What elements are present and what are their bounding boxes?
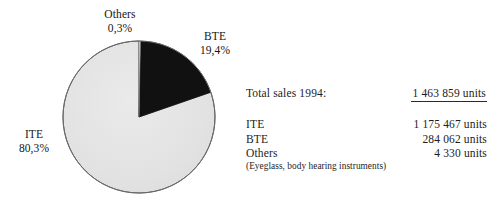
- pie-label-bte: BTE 19,4%: [182, 30, 248, 57]
- total-sales-row: Total sales 1994: 1 463 859 units: [246, 88, 487, 103]
- pie-label-bte-percent: 19,4%: [182, 44, 248, 58]
- row-value-ite: 1 175 467 units: [414, 119, 487, 131]
- pie-label-ite-percent: 80,3%: [2, 142, 66, 156]
- row-value-others: 4 330 units: [434, 148, 487, 160]
- row-label-others: Others: [246, 148, 278, 160]
- total-sales-value: 1 463 859 units: [411, 88, 487, 102]
- others-footnote: (Eyeglass, body hearing instruments): [246, 162, 487, 171]
- sales-summary: Total sales 1994: 1 463 859 units ITE 1 …: [246, 88, 487, 171]
- pie-chart: Others 0,3% BTE 19,4% ITE 80,3%: [0, 0, 244, 205]
- pie-label-ite: ITE 80,3%: [2, 128, 66, 155]
- table-row: BTE 284 062 units: [246, 134, 487, 149]
- pie-label-others: Others 0,3%: [84, 8, 156, 35]
- table-row: Others 4 330 units: [246, 148, 487, 161]
- row-label-ite: ITE: [246, 119, 264, 131]
- sales-pie-figure: Others 0,3% BTE 19,4% ITE 80,3% Total sa…: [0, 0, 487, 205]
- pie-label-others-name: Others: [84, 8, 156, 22]
- total-sales-label: Total sales 1994:: [246, 88, 326, 100]
- table-row: ITE 1 175 467 units: [246, 119, 487, 134]
- pie-label-ite-name: ITE: [2, 128, 66, 142]
- pie-label-bte-name: BTE: [182, 30, 248, 44]
- row-label-bte: BTE: [246, 134, 268, 146]
- row-value-bte: 284 062 units: [422, 134, 487, 146]
- pie-label-others-percent: 0,3%: [84, 22, 156, 36]
